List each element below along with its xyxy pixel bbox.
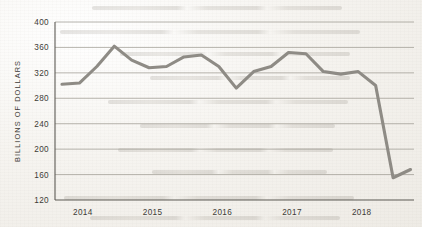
y-axis-tick-label: 120 (34, 196, 49, 205)
y-axis-tick-label: 400 (34, 18, 49, 27)
y-axis-tick-label: 200 (34, 145, 49, 154)
y-axis-tick-label: 360 (34, 43, 49, 52)
line-chart: 1201602002402803203604002014201520162017… (0, 0, 422, 227)
y-axis-title: BILLIONS OF DOLLARS (13, 60, 22, 162)
series-line-value (62, 46, 411, 178)
x-axis-tick-label: 2017 (282, 208, 302, 217)
x-axis-tick-label: 2014 (73, 208, 93, 217)
y-axis-tick-label: 280 (34, 94, 49, 103)
x-axis-tick-label: 2016 (212, 208, 232, 217)
x-axis-tick-label: 2018 (352, 208, 372, 217)
x-axis-tick-label: 2015 (143, 208, 163, 217)
chart-canvas: 1201602002402803203604002014201520162017… (0, 0, 422, 227)
y-axis-tick-label: 240 (34, 120, 49, 129)
y-axis-tick-label: 160 (34, 171, 49, 180)
y-axis-tick-label: 320 (34, 69, 49, 78)
